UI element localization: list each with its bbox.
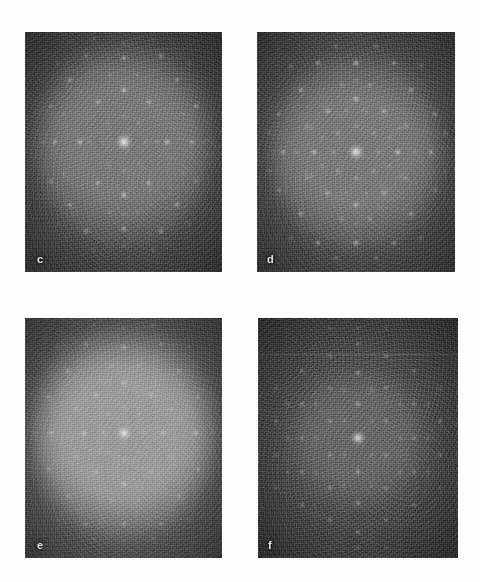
pattern-stage (25, 32, 222, 272)
diffuse-streak-layer (25, 32, 222, 272)
diffraction-panel-c: c (25, 32, 222, 272)
diffraction-panel-e: e (25, 318, 222, 558)
scan-seam-line (258, 354, 458, 355)
pattern-stage (257, 32, 455, 272)
diffuse-streak-layer (25, 318, 222, 558)
diffraction-panel-d: d (257, 32, 455, 272)
diffraction-panel-f: f (258, 318, 458, 558)
panel-label-c: c (37, 254, 43, 265)
diffuse-streak-layer (257, 32, 455, 272)
diffraction-figure: cdef (0, 0, 480, 582)
pattern-stage (258, 318, 458, 558)
panel-label-f: f (268, 540, 272, 551)
panel-label-e: e (37, 540, 43, 551)
panel-label-d: d (267, 254, 274, 265)
pattern-stage (25, 318, 222, 558)
